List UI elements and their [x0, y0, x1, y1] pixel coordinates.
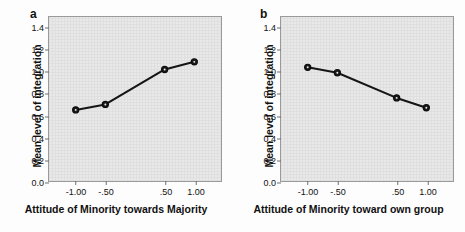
panel-letter-b: b	[260, 7, 267, 21]
data-point-marker-core	[75, 109, 77, 111]
y-tick-label: 1.0	[263, 67, 281, 77]
plot-area-a: 0.00.20.40.60.81.01.21.4-1.00-.50.501.00	[48, 16, 222, 182]
y-tick-label: 0.2	[263, 156, 281, 166]
x-tick-label: -.50	[330, 181, 346, 197]
y-tick-label: 1.4	[31, 23, 49, 33]
x-tick-label: 1.00	[187, 181, 205, 197]
x-tick-mark	[397, 181, 398, 185]
x-tick-mark	[196, 181, 197, 185]
data-point-marker-core	[336, 72, 338, 74]
data-point-marker-core	[425, 107, 427, 109]
y-tick-label: 1.2	[31, 45, 49, 55]
y-tick-mark	[277, 28, 281, 29]
y-tick-label: 0.6	[31, 112, 49, 122]
figure-container: a Mean level of integration 0.00.20.40.6…	[0, 0, 465, 232]
y-tick-mark	[277, 116, 281, 117]
y-tick-mark	[45, 138, 49, 139]
y-tick-label: 0.0	[263, 178, 281, 188]
series-a	[49, 17, 221, 181]
x-axis-title-b: Attitude of Minority toward own group	[232, 203, 465, 215]
x-tick-mark	[307, 181, 308, 185]
x-axis-title-a: Attitude of Minority towards Majority	[0, 203, 232, 215]
y-tick-mark	[277, 94, 281, 95]
x-tick-mark	[105, 181, 106, 185]
data-point-marker-core	[164, 69, 166, 71]
y-tick-label: 0.8	[31, 89, 49, 99]
y-tick-label: 0.2	[31, 156, 49, 166]
x-tick-mark	[75, 181, 76, 185]
y-tick-mark	[45, 28, 49, 29]
panel-a: a Mean level of integration 0.00.20.40.6…	[0, 0, 232, 232]
y-tick-mark	[277, 72, 281, 73]
y-tick-label: 1.4	[263, 23, 281, 33]
y-tick-mark	[45, 94, 49, 95]
y-tick-mark	[277, 160, 281, 161]
panel-letter-a: a	[30, 7, 37, 21]
y-tick-mark	[45, 116, 49, 117]
x-tick-label: 1.00	[419, 181, 437, 197]
y-tick-label: 1.2	[263, 45, 281, 55]
data-point-marker-core	[104, 104, 106, 106]
x-tick-label: .50	[392, 181, 405, 197]
y-tick-mark	[45, 72, 49, 73]
y-tick-label: 0.4	[263, 134, 281, 144]
y-tick-label: 0.8	[263, 89, 281, 99]
y-tick-label: 0.4	[31, 134, 49, 144]
y-tick-mark	[45, 183, 49, 184]
data-point-marker-core	[193, 61, 195, 63]
x-tick-label: -1.00	[298, 181, 319, 197]
series-b	[281, 17, 453, 181]
y-tick-mark	[277, 138, 281, 139]
data-point-marker-core	[307, 66, 309, 68]
series-line	[76, 62, 195, 110]
x-tick-mark	[337, 181, 338, 185]
y-tick-mark	[45, 160, 49, 161]
x-tick-label: -.50	[98, 181, 114, 197]
y-tick-label: 1.0	[31, 67, 49, 77]
data-point-marker-core	[396, 97, 398, 99]
panel-b: b Mean level of integration 0.00.20.40.6…	[232, 0, 465, 232]
x-tick-mark	[165, 181, 166, 185]
series-line	[308, 67, 427, 107]
y-tick-label: 0.0	[31, 178, 49, 188]
x-tick-label: -1.00	[66, 181, 87, 197]
y-tick-mark	[277, 183, 281, 184]
y-tick-label: 0.6	[263, 112, 281, 122]
x-tick-mark	[428, 181, 429, 185]
y-tick-mark	[277, 50, 281, 51]
y-tick-mark	[45, 50, 49, 51]
plot-area-b: 0.00.20.40.60.81.01.21.4-1.00-.50.501.00	[280, 16, 454, 182]
x-tick-label: .50	[160, 181, 173, 197]
